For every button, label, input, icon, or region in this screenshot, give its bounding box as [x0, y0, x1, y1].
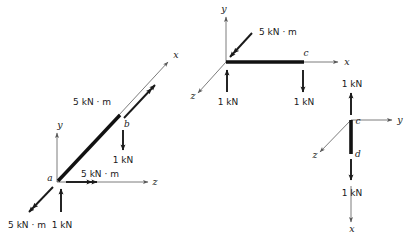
force-at-c-label: 1 kN	[294, 97, 315, 107]
force-at-b-up: 1 kN	[218, 70, 239, 107]
moment-shaft	[124, 85, 155, 118]
moment-at-a-negx-label: 5 kN · m	[8, 220, 46, 230]
force-at-d-label: 1 kN	[342, 188, 363, 198]
middle-diagram: y x z c 5 kN · m 1 kN 1 kN	[189, 3, 350, 107]
point-d-label: d	[355, 149, 361, 159]
axis-z-line	[320, 120, 351, 152]
axis-z-line	[198, 62, 226, 93]
right-axes: y z x	[311, 114, 403, 234]
force-at-c-up: 1 kN	[342, 79, 363, 115]
axis-z-label: z	[311, 149, 318, 160]
moment-at-b-along-x: 5 kN · m	[73, 85, 155, 118]
force-at-a-label: 1 kN	[52, 220, 73, 230]
axis-y-label: y	[220, 3, 227, 14]
left-diagram: x y z a b 5 kN · m 1 kN 5 kN · m	[8, 49, 179, 230]
point-b-label: b	[124, 119, 130, 129]
force-at-b-down: 1 kN	[113, 130, 134, 165]
middle-axes: y x z	[189, 3, 350, 101]
moment-shaft	[29, 187, 53, 212]
moment-at-a-z-label: 5 kN · m	[81, 169, 119, 179]
force-at-b-label: 1 kN	[218, 97, 239, 107]
point-a-label: a	[47, 173, 52, 183]
axis-x-label: x	[173, 49, 179, 60]
moment-at-b-along-neg-x: 5 kN · m	[230, 27, 297, 57]
force-at-b-label: 1 kN	[113, 155, 134, 165]
axis-z-label: z	[189, 90, 196, 101]
free-body-diagram-figure: x y z a b 5 kN · m 1 kN 5 kN · m	[0, 0, 409, 235]
axis-x-label: x	[349, 223, 355, 234]
force-at-a-up: 1 kN	[52, 189, 73, 230]
axis-x-label: x	[344, 56, 350, 67]
force-at-c-label: 1 kN	[342, 79, 363, 89]
force-at-c-down: 1 kN	[294, 70, 315, 107]
point-c-label: c	[303, 48, 308, 58]
axis-y-label: y	[396, 114, 403, 125]
moment-shaft	[230, 33, 252, 57]
moment-at-b-label: 5 kN · m	[259, 27, 297, 37]
moment-at-a-along-z: 5 kN · m	[66, 169, 119, 182]
moment-at-b-label: 5 kN · m	[73, 97, 111, 107]
axis-z-label: z	[151, 176, 158, 187]
axis-y-label: y	[56, 119, 63, 130]
point-c-label: c	[355, 116, 360, 126]
right-diagram: y z x c d 1 kN 1 kN	[311, 79, 403, 234]
moment-at-a-along-neg-x: 5 kN · m	[8, 187, 53, 230]
force-at-d-down: 1 kN	[342, 159, 363, 198]
